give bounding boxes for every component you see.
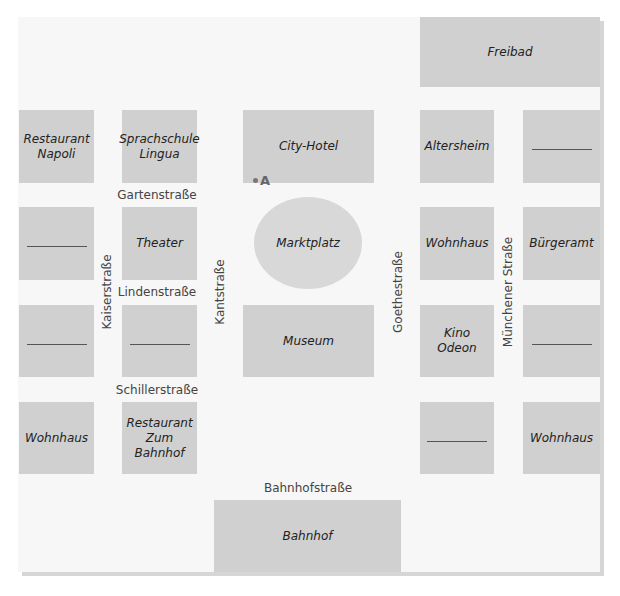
building-theater[interactable]: Theater: [122, 207, 197, 280]
street-bahnhofstrasse: Bahnhofstraße: [264, 481, 352, 495]
building-blank-r3c2[interactable]: [122, 305, 197, 377]
blank-line: [427, 441, 487, 442]
building-wohnhaus-kaiser[interactable]: Wohnhaus: [19, 402, 94, 474]
building-label: Bahnhof: [283, 529, 333, 544]
building-label: Museum: [283, 334, 334, 349]
marktplatz[interactable]: Marktplatz: [254, 197, 362, 289]
building-label: Wohnhaus: [25, 431, 88, 446]
building-label: Theater: [136, 236, 183, 251]
building-label: Altersheim: [425, 139, 490, 154]
building-wohnhaus-muenchener[interactable]: Wohnhaus: [523, 402, 600, 474]
blank-line: [130, 344, 190, 345]
street-goethestrasse: Goethestraße: [391, 251, 405, 333]
street-lindenstrasse: Lindenstraße: [118, 285, 196, 299]
building-museum[interactable]: Museum: [243, 305, 374, 377]
building-restaurant-napoli[interactable]: Restaurant Napoli: [19, 110, 94, 183]
marker-label: A: [260, 173, 270, 188]
building-blank-r3c1[interactable]: [19, 305, 94, 377]
building-label: City-Hotel: [279, 139, 338, 154]
building-sprachschule-lingua[interactable]: Sprachschule Lingua: [122, 110, 197, 183]
street-gartenstrasse: Gartenstraße: [117, 188, 196, 202]
blank-line: [532, 149, 592, 150]
building-buergeramt[interactable]: Bürgeramt: [523, 207, 600, 280]
building-label: Restaurant Zum Bahnhof: [126, 416, 193, 461]
building-label: Freibad: [487, 45, 532, 60]
building-label: Kino Odeon: [424, 326, 490, 356]
blank-line: [532, 344, 592, 345]
building-freibad[interactable]: Freibad: [420, 17, 600, 87]
building-kino-odeon[interactable]: Kino Odeon: [420, 305, 494, 377]
building-label: Bürgeramt: [529, 236, 593, 251]
building-blank-r4c4[interactable]: [420, 402, 494, 474]
building-bahnhof[interactable]: Bahnhof: [214, 500, 401, 572]
building-label: Restaurant Napoli: [23, 132, 89, 162]
street-muenchener-strasse: Münchener Straße: [501, 237, 515, 347]
street-kantstrasse: Kantstraße: [213, 259, 227, 325]
building-blank-r2c1[interactable]: [19, 207, 94, 280]
building-wohnhaus-goethe[interactable]: Wohnhaus: [420, 207, 494, 280]
building-blank-r1c5[interactable]: [523, 110, 600, 183]
street-kaiserstrasse: Kaiserstraße: [100, 254, 114, 329]
location-marker-a[interactable]: A: [253, 173, 270, 188]
marker-dot-icon: [253, 178, 258, 183]
plaza-label: Marktplatz: [276, 236, 340, 250]
building-label: Sprachschule Lingua: [119, 132, 200, 162]
building-restaurant-zum-bahnhof[interactable]: Restaurant Zum Bahnhof: [122, 402, 197, 474]
building-altersheim[interactable]: Altersheim: [420, 110, 494, 183]
street-schillerstrasse: Schillerstraße: [116, 383, 198, 397]
blank-line: [27, 344, 87, 345]
building-blank-r3c5[interactable]: [523, 305, 600, 377]
building-label: Wohnhaus: [530, 431, 593, 446]
building-label: Wohnhaus: [425, 236, 488, 251]
blank-line: [27, 246, 87, 247]
